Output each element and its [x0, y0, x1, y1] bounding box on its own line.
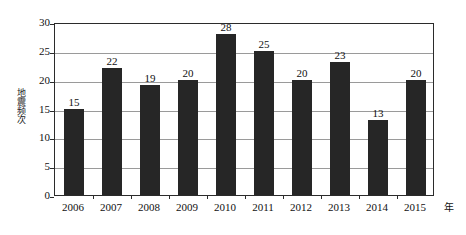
- bar-value-label: 23: [320, 50, 360, 61]
- bar-value-label: 19: [130, 73, 170, 84]
- x-axis-tick-mark: [321, 195, 322, 199]
- bar-value-label: 15: [54, 97, 94, 108]
- y-axis-tick-mark: [50, 197, 54, 198]
- bar: [292, 80, 312, 195]
- bar: [178, 80, 198, 195]
- y-axis-tick-label: 15: [30, 104, 50, 115]
- bar-value-label: 28: [206, 22, 246, 33]
- y-axis-tick-mark: [50, 24, 54, 25]
- bar-value-label: 20: [168, 68, 208, 79]
- plot-area: 15221920282520231320: [54, 23, 434, 196]
- bar: [216, 34, 236, 195]
- bar: [406, 80, 426, 195]
- y-axis-tick-mark: [50, 82, 54, 83]
- y-axis-tick-label: 20: [30, 75, 50, 86]
- bar: [64, 109, 84, 196]
- y-axis-tick-mark: [50, 139, 54, 140]
- y-axis-tick-labels: 051015202530: [24, 0, 50, 235]
- x-axis-tick-mark: [207, 195, 208, 199]
- bar: [330, 62, 350, 195]
- y-axis-tick-mark: [50, 168, 54, 169]
- y-axis-tick-label: 5: [30, 161, 50, 172]
- x-axis-tick-mark: [169, 195, 170, 199]
- bar: [368, 120, 388, 195]
- y-axis-tick-mark: [50, 111, 54, 112]
- x-axis-tick-mark: [283, 195, 284, 199]
- bar-value-label: 13: [358, 108, 398, 119]
- y-axis-tick-label: 10: [30, 132, 50, 143]
- bar: [140, 85, 160, 195]
- x-axis-tick-mark: [245, 195, 246, 199]
- y-axis-tick-label: 25: [30, 46, 50, 57]
- bar-value-label: 20: [282, 68, 322, 79]
- bar-value-label: 25: [244, 39, 284, 50]
- x-axis-tick-mark: [359, 195, 360, 199]
- x-axis-tick-label: 2015: [393, 201, 437, 213]
- x-axis-tick-mark: [131, 195, 132, 199]
- bar: [102, 68, 122, 195]
- x-axis-unit-label: 年: [444, 202, 454, 213]
- x-axis-tick-mark: [93, 195, 94, 199]
- bar-value-label: 20: [396, 68, 436, 79]
- y-axis-tick-mark: [50, 53, 54, 54]
- gridline: [55, 53, 433, 54]
- x-axis-tick-mark: [397, 195, 398, 199]
- y-axis-tick-label: 30: [30, 17, 50, 28]
- bar: [254, 51, 274, 195]
- y-axis-tick-label: 0: [30, 190, 50, 201]
- bar-chart: 地震频次 051015202530 15221920282520231320 年…: [0, 0, 466, 235]
- bar-value-label: 22: [92, 56, 132, 67]
